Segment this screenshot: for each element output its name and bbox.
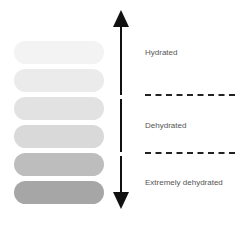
hydration-swatch-3	[14, 97, 104, 120]
hydration-swatch-1	[14, 41, 104, 64]
hydration-swatch-2	[14, 69, 104, 92]
hydration-swatch-6	[14, 181, 104, 204]
label-extremely-dehydrated: Extremely dehydrated	[145, 178, 223, 187]
divider-dashed-2	[145, 152, 235, 154]
hydration-swatch-5	[14, 153, 104, 176]
arrow-down-icon	[113, 192, 129, 209]
label-dehydrated: Dehydrated	[145, 121, 186, 130]
arrow-shaft-top	[120, 25, 122, 95]
label-hydrated: Hydrated	[145, 48, 177, 57]
arrow-shaft-bottom	[120, 156, 122, 194]
hydration-swatch-4	[14, 125, 104, 148]
arrow-shaft-middle	[120, 99, 122, 152]
divider-dashed-1	[145, 94, 235, 96]
